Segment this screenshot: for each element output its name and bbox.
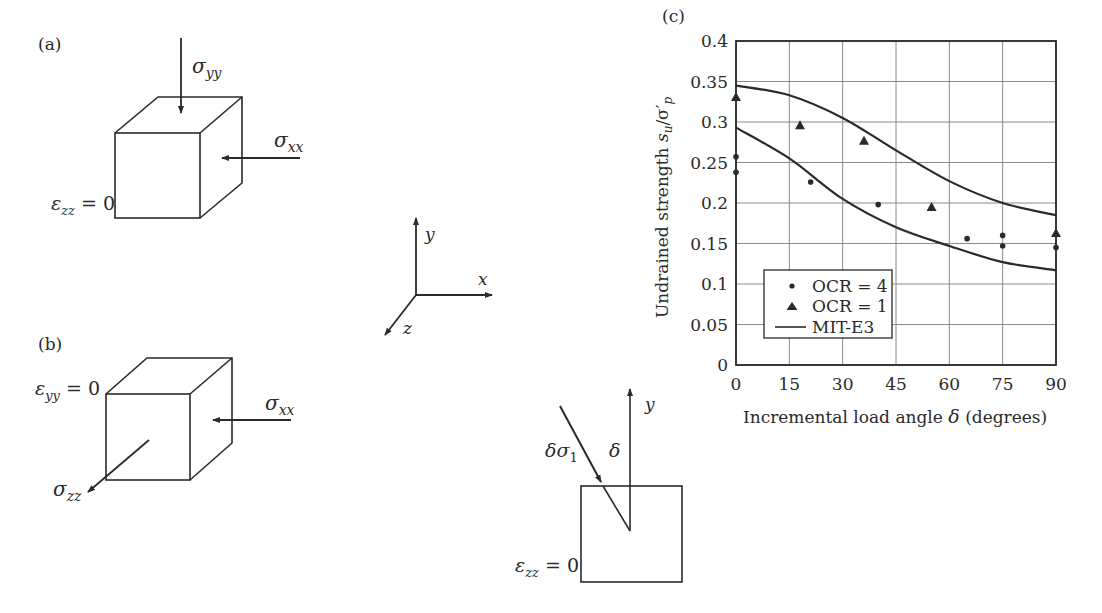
coordinate-axes: y x z bbox=[385, 218, 492, 338]
panel-load-angle: y δ δσ1 εzz = 0 bbox=[515, 389, 682, 582]
x-tick-label: 45 bbox=[885, 374, 907, 394]
legend-ocr4: OCR = 4 bbox=[812, 276, 888, 296]
strain-zz-label-d: εzz = 0 bbox=[515, 554, 579, 580]
point-ocr4 bbox=[964, 236, 970, 242]
sigma-xx-label-b: σxx bbox=[265, 391, 295, 418]
legend: OCR = 4 OCR = 1 MIT-E3 bbox=[764, 270, 892, 338]
axis-x-label: x bbox=[478, 269, 488, 289]
sample-box bbox=[581, 486, 682, 582]
panel-c-label: (c) bbox=[662, 6, 685, 26]
figure-canvas: (a) σyy σxx εzz = 0 (b) σxx σzz εyy = 0 … bbox=[0, 0, 1102, 613]
y-tick-label: 0.35 bbox=[690, 72, 728, 92]
x-tick-label: 75 bbox=[992, 374, 1014, 394]
panel-a-label: (a) bbox=[38, 34, 61, 54]
panel-b: (b) σxx σzz εyy = 0 bbox=[35, 334, 295, 504]
sigma-xx-label-a: σxx bbox=[274, 128, 304, 155]
strain-yy-label-b: εyy = 0 bbox=[35, 377, 100, 403]
x-tick-label: 30 bbox=[832, 374, 854, 394]
y-tick-label: 0 bbox=[717, 355, 728, 375]
point-ocr4 bbox=[808, 179, 814, 185]
axis-z-label: z bbox=[402, 318, 413, 338]
y-tick-label: 0.15 bbox=[690, 234, 728, 254]
point-ocr1 bbox=[859, 136, 869, 145]
legend-circle-icon bbox=[789, 283, 794, 288]
sigma-yy-label: σyy bbox=[192, 54, 223, 81]
y-tick-labels: 00.050.10.150.20.250.30.350.4 bbox=[690, 31, 728, 375]
strain-zz-label-a: εzz = 0 bbox=[51, 192, 115, 218]
chart-undrained-strength: (c) 00.050.10.150.20.250.30.350.4 015304… bbox=[652, 6, 1067, 427]
y-tick-label: 0.3 bbox=[701, 112, 728, 132]
point-ocr4 bbox=[1000, 243, 1006, 249]
x-axis-title: Incremental load angle δ (degrees) bbox=[743, 405, 1047, 427]
y-tick-label: 0.1 bbox=[701, 274, 728, 294]
y-tick-label: 0.25 bbox=[690, 153, 728, 173]
y-axis-title: Undrained strength su/σ′p bbox=[652, 96, 675, 318]
y-tick-label: 0.2 bbox=[701, 193, 728, 213]
point-ocr4 bbox=[1000, 233, 1006, 239]
legend-ocr1: OCR = 1 bbox=[812, 296, 888, 316]
delta-sigma-label: δσ1 bbox=[545, 439, 578, 465]
panel-b-label: (b) bbox=[38, 334, 62, 354]
legend-mit-e3: MIT-E3 bbox=[812, 317, 874, 337]
x-tick-label: 90 bbox=[1045, 374, 1067, 394]
panel-a: (a) σyy σxx εzz = 0 bbox=[38, 34, 304, 218]
x-tick-label: 15 bbox=[779, 374, 801, 394]
delta-angle-label: δ bbox=[609, 439, 620, 461]
y-tick-label: 0.4 bbox=[701, 31, 728, 51]
sigma-zz-label: σzz bbox=[53, 477, 82, 504]
point-ocr4 bbox=[875, 202, 881, 208]
x-tick-label: 0 bbox=[731, 374, 742, 394]
y-tick-label: 0.05 bbox=[690, 315, 728, 335]
x-tick-label: 60 bbox=[939, 374, 961, 394]
load-direction-line bbox=[603, 486, 630, 531]
arrow-sigma-zz bbox=[88, 440, 149, 492]
x-tick-labels: 0153045607590 bbox=[731, 374, 1067, 394]
axis-y-label: y bbox=[424, 224, 435, 244]
y-label: y bbox=[644, 394, 655, 414]
